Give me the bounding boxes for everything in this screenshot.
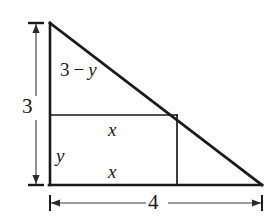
height-dimension-arrowhead-bottom [32,175,39,184]
base-dimension-arrowhead-left [51,199,60,206]
upper-left-side-label: 3−y [60,60,97,79]
geometry-figure: 3 4 3−y x x y [0,0,277,224]
rectangle-bottom-label: x [108,162,116,181]
figure-canvas [0,0,277,224]
upper-left-side-variable: y [88,59,96,80]
base-dimension-label: 4 [148,192,159,213]
upper-left-side-operator: − [74,59,85,80]
height-dimension-label: 3 [22,96,33,117]
height-dimension-arrowhead-top [32,24,39,33]
upper-left-side-prefix: 3 [60,59,70,80]
rectangle-top-label: x [108,120,116,139]
rectangle-left-label: y [56,146,64,165]
triangle-hypotenuse [50,23,262,185]
triangle-outline [49,23,262,185]
base-dimension-arrowhead-right [252,199,261,206]
